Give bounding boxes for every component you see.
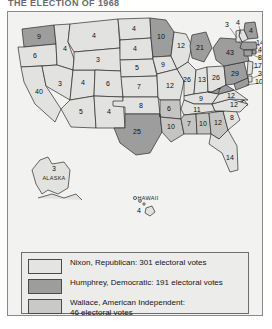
figure-title: THE ELECTION OF 1968 [8, 0, 258, 8]
label-LA: 10 [167, 123, 175, 130]
label-MO: 12 [166, 82, 174, 89]
label-AL: 10 [199, 120, 207, 127]
label-CT: 8 [258, 54, 262, 61]
label-NC: 12 [230, 101, 238, 108]
label-NJ: 17 [254, 62, 262, 69]
label-WI: 12 [177, 42, 185, 49]
alaska-aleutians [38, 194, 82, 200]
state-HI[interactable] [145, 206, 155, 216]
label-WV: 7 [217, 87, 221, 94]
map-svg: 9 6 40 4 3 4 5 4 3 6 4 4 4 5 7 8 25 10 9… [8, 12, 262, 240]
label-HI: 4 [137, 207, 141, 214]
label-NM: 4 [107, 108, 111, 115]
label-IL: 26 [183, 76, 191, 83]
label-PA: 29 [231, 70, 239, 77]
label-MT: 4 [92, 32, 96, 39]
label-WY: 3 [96, 56, 100, 63]
label-SC: 8 [230, 114, 234, 121]
hawaii-island-3 [143, 203, 145, 205]
state-RI[interactable] [252, 50, 256, 54]
label-SD: 4 [133, 45, 137, 52]
alaska-name-label: ALASKA [42, 175, 65, 181]
label-UT: 4 [81, 79, 85, 86]
label-VT: 3 [225, 21, 229, 28]
hawaii-name-label: HAWAII [138, 195, 159, 201]
label-MN: 10 [157, 33, 165, 40]
label-IN: 13 [198, 76, 206, 83]
label-MI: 21 [196, 44, 204, 51]
state-NJ[interactable] [247, 61, 253, 75]
state-FL[interactable] [209, 130, 238, 172]
label-VA: 12 [227, 92, 235, 99]
legend-label-wallace: Wallace, American Independent: 46 electo… [70, 298, 185, 318]
label-ND: 4 [132, 25, 136, 32]
legend-item-humphrey[interactable]: Humphrey, Democratic: 191 electoral vote… [28, 278, 242, 294]
label-DE: 3 [258, 70, 262, 77]
label-CA: 40 [35, 88, 43, 95]
map-frame: 9 6 40 4 3 4 5 4 3 6 4 4 4 5 7 8 25 10 9… [7, 11, 263, 316]
label-WA: 9 [37, 33, 41, 40]
label-CO: 6 [106, 80, 110, 87]
label-NE: 5 [135, 64, 139, 71]
label-MA: 14 [256, 39, 262, 46]
label-OH: 26 [212, 74, 220, 81]
legend-swatch-wallace [28, 299, 62, 314]
label-ID: 4 [63, 45, 67, 52]
electoral-map-figure: THE ELECTION OF 1968 [0, 0, 272, 329]
state-MA[interactable] [240, 42, 257, 50]
label-MS: 7 [187, 120, 191, 127]
us-map: 9 6 40 4 3 4 5 4 3 6 4 4 4 5 7 8 25 10 9… [8, 12, 262, 240]
label-TN: 11 [193, 106, 200, 113]
label-NY: 43 [226, 49, 234, 56]
label-OK: 8 [139, 102, 143, 109]
state-OR[interactable] [18, 44, 57, 67]
legend-label-nixon: Nixon, Republican: 301 electoral votes [70, 258, 207, 268]
label-KS: 7 [137, 83, 141, 90]
label-NV: 3 [58, 80, 62, 87]
label-NH: 4 [236, 19, 240, 26]
label-AR: 6 [167, 105, 171, 112]
label-FL: 14 [226, 154, 234, 161]
legend-item-nixon[interactable]: Nixon, Republican: 301 electoral votes [28, 258, 242, 274]
hawaii-island-1 [133, 196, 136, 199]
legend-swatch-nixon [28, 259, 62, 274]
label-OR: 6 [33, 52, 37, 59]
label-KY: 9 [199, 95, 203, 102]
state-CT[interactable] [244, 50, 252, 56]
legend-item-wallace[interactable]: Wallace, American Independent: 46 electo… [28, 298, 242, 318]
legend-label-humphrey: Humphrey, Democratic: 191 electoral vote… [70, 278, 223, 288]
label-ME: 4 [249, 27, 253, 34]
label-AZ: 5 [79, 108, 83, 115]
label-TX: 25 [133, 128, 141, 135]
label-RI: 4 [258, 46, 262, 53]
map-legend: Nixon, Republican: 301 electoral votes H… [21, 252, 249, 314]
label-AK: 3 [52, 165, 56, 172]
label-IA: 9 [161, 61, 165, 68]
label-GA: 12 [214, 119, 222, 126]
label-MD: 10 [255, 78, 262, 85]
legend-swatch-humphrey [28, 279, 62, 294]
